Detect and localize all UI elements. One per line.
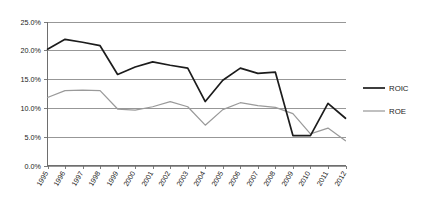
chart-legend: ROIC ROE bbox=[363, 84, 409, 116]
x-axis-ticks bbox=[49, 166, 347, 170]
x-axis-tick-label: 2012 bbox=[332, 170, 348, 188]
line-chart: 25.0%20.0%15.0%10.0%5.0%0.0% 19951996199… bbox=[0, 0, 440, 208]
y-axis-tick-label: 25.0% bbox=[21, 18, 42, 27]
x-axis-tick-label: 2000 bbox=[121, 170, 137, 188]
x-axis-tick-label: 2007 bbox=[244, 170, 260, 188]
series-line-roe bbox=[48, 90, 346, 141]
y-axis-tick-label: 15.0% bbox=[21, 75, 42, 84]
x-axis-tick-label: 1999 bbox=[104, 170, 120, 188]
x-axis-tick-label: 2009 bbox=[279, 170, 295, 188]
x-axis-tick-label: 2008 bbox=[261, 170, 277, 188]
y-axis-tick-label: 0.0% bbox=[25, 162, 42, 171]
series-line-roic bbox=[48, 39, 346, 135]
x-axis-tick-label: 1996 bbox=[51, 170, 67, 188]
x-axis-tick-label: 1997 bbox=[69, 170, 85, 188]
x-axis-tick-label: 2003 bbox=[174, 170, 190, 188]
x-axis-tick-label: 1995 bbox=[34, 170, 50, 188]
y-axis-ticks bbox=[44, 23, 48, 167]
x-axis-tick-label: 2011 bbox=[315, 170, 331, 188]
y-axis-tick-label: 20.0% bbox=[21, 46, 42, 55]
y-axis-labels: 25.0%20.0%15.0%10.0%5.0%0.0% bbox=[21, 18, 42, 171]
legend-label-roic: ROIC bbox=[389, 84, 409, 93]
chart-container: 25.0%20.0%15.0%10.0%5.0%0.0% 19951996199… bbox=[0, 0, 440, 208]
x-axis-tick-label: 2006 bbox=[226, 170, 242, 188]
x-axis-tick-label: 2002 bbox=[156, 170, 172, 188]
y-axis-tick-label: 10.0% bbox=[21, 104, 42, 113]
x-axis-tick-label: 2005 bbox=[209, 170, 225, 188]
x-axis-tick-label: 2001 bbox=[139, 170, 155, 188]
x-axis-tick-label: 1998 bbox=[86, 170, 102, 188]
x-axis-labels: 1995199619971998199920002001200220032004… bbox=[34, 170, 348, 188]
x-axis-tick-label: 2004 bbox=[191, 170, 207, 188]
legend-label-roe: ROE bbox=[389, 107, 406, 116]
y-axis-tick-label: 5.0% bbox=[25, 133, 42, 142]
x-axis-tick-label: 2010 bbox=[296, 170, 312, 188]
